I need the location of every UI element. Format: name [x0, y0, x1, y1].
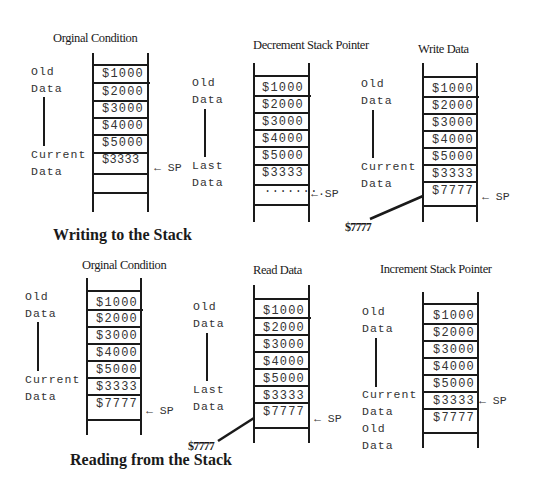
panel-title: Orginal Condition [53, 31, 137, 46]
side-label-top: OldData [193, 298, 225, 332]
stack-cell: $3000 [96, 329, 138, 343]
stack-cell: $2000 [262, 98, 304, 112]
side-label-top: OldData [362, 303, 394, 337]
side-label-top: OldData [192, 74, 224, 108]
panel-title: Increment Stack Pointer [380, 262, 492, 277]
stack-cell: $4000 [432, 133, 474, 147]
stack-cell: $3000 [432, 116, 474, 130]
side-label-bottom: CurrentData OldData [362, 386, 417, 454]
side-label-top: OldData [361, 75, 393, 109]
stack-pointer-label: ←·SP [311, 187, 339, 200]
stack-cell: $7777 [432, 184, 474, 198]
side-label-bottom: CurrentData [31, 146, 86, 180]
stack-cell: $4000 [262, 132, 304, 146]
stack-cell: $1000 [96, 296, 138, 310]
stack-cell: $2000 [102, 85, 144, 99]
stack-cell: $3000 [433, 343, 475, 357]
stack-cell: $3333 [102, 153, 140, 167]
stack-cell: $4000 [102, 119, 144, 133]
stack-cell: $3000 [102, 102, 144, 116]
panel-title: Orginal Condition [82, 258, 166, 273]
side-label-bottom: LastData [192, 157, 224, 191]
stack-cell: $5000 [102, 136, 144, 150]
incoming-value-label: $7777 [345, 220, 371, 235]
stack-cell: $3333 [433, 394, 475, 408]
stack-cell: $4000 [263, 355, 305, 369]
stack-cell: $7777 [433, 411, 475, 425]
stack-cell: $3333 [96, 380, 138, 394]
side-label-bottom: LastData [193, 381, 225, 415]
stack-cell: $1000 [262, 81, 304, 95]
stack-cell: $5000 [262, 149, 304, 163]
stack-cell: $3333 [432, 167, 474, 181]
stack-cell: $1000 [433, 309, 475, 323]
push-connector-line [370, 196, 423, 219]
section-title-writing: Writing to the Stack [53, 226, 192, 244]
stack-pointer-label: ← SP [146, 404, 174, 417]
stack-cell: $4000 [96, 346, 138, 360]
panel-title: Write Data [418, 42, 469, 57]
stack-cell: $3333 [262, 166, 304, 180]
stack-cell: $5000 [263, 372, 305, 386]
stack-cell: $1000 [102, 67, 144, 81]
stack-cell: $2000 [432, 99, 474, 113]
side-label-top: OldData [31, 63, 63, 97]
stack-cell: $7777 [263, 405, 305, 419]
stack-cell: $5000 [96, 363, 138, 377]
panel-title: Read Data [253, 263, 302, 278]
stack-cell: $2000 [263, 321, 305, 335]
stack-cell: $4000 [433, 360, 475, 374]
stack-cell: $3000 [262, 115, 304, 129]
stack-cell: $2000 [96, 312, 138, 326]
outgoing-value-label: $7777 [188, 439, 214, 454]
stack-cell: $5000 [433, 377, 475, 391]
stack-cell: $2000 [433, 326, 475, 340]
stack-cell: $1000 [432, 82, 474, 96]
stack-cell-dotted: ······· [264, 185, 318, 199]
stack-pointer-label: ← SP [479, 394, 507, 407]
stack-cell: $3000 [263, 338, 305, 352]
stack-pointer-label: ← SP [154, 161, 182, 174]
stack-pointer-label: ← SP [314, 412, 342, 425]
panel-title: Decrement Stack Pointer [253, 38, 369, 53]
side-label-bottom: CurrentData [361, 158, 416, 192]
stack-cell: $1000 [263, 304, 305, 318]
pop-connector-line [218, 418, 254, 441]
stack-cell: $7777 [96, 397, 138, 411]
stack-pointer-label: ← SP [482, 190, 510, 203]
side-label-bottom: CurrentData [25, 371, 80, 405]
side-label-top: OldData [25, 288, 57, 322]
stack-cell: $5000 [432, 150, 474, 164]
stack-cell: $3333 [263, 389, 305, 403]
